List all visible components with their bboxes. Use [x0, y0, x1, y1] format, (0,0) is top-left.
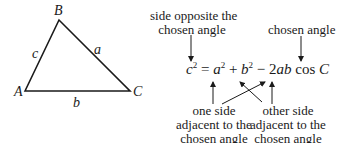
formula-angle: C: [319, 61, 329, 77]
exp: 2: [193, 60, 198, 70]
vertex-label-c: C: [133, 84, 142, 100]
side-label-a: a: [94, 42, 101, 58]
law-of-cosines-formula: c2 = a2 + b2 − 2ab cos C: [186, 61, 329, 78]
label-one-side: one side adjacent to the chosen angle: [176, 104, 252, 143]
formula-a: a: [213, 61, 221, 77]
vertex-label-a: A: [14, 84, 23, 100]
label-other-side: other side adjacent to the chosen angle: [250, 104, 326, 143]
side-label-b: b: [73, 95, 80, 111]
plus: +: [229, 61, 237, 77]
label-line: chosen angle: [150, 23, 234, 37]
triangle-shape: [25, 20, 130, 91]
vertex-label-b: B: [54, 3, 63, 19]
minus: −: [257, 61, 265, 77]
cos: cos: [295, 61, 315, 77]
equals: =: [201, 61, 209, 77]
label-line: one side: [176, 104, 252, 118]
label-line: other side: [250, 104, 326, 118]
side-label-c: c: [32, 46, 38, 62]
label-line: adjacent to the: [250, 118, 326, 132]
formula-b: b: [241, 61, 249, 77]
label-side-opposite: side opposite the chosen angle: [150, 9, 234, 37]
label-line: adjacent to the: [176, 118, 252, 132]
formula-ab: ab: [277, 61, 292, 77]
label-chosen-angle: chosen angle: [268, 23, 334, 37]
coef: 2: [269, 61, 277, 77]
formula-c: c: [186, 61, 193, 77]
label-line: side opposite the: [150, 9, 234, 23]
label-line: chosen angle: [176, 132, 252, 143]
exp: 2: [221, 60, 226, 70]
label-line: chosen angle: [250, 132, 326, 143]
exp: 2: [249, 60, 254, 70]
